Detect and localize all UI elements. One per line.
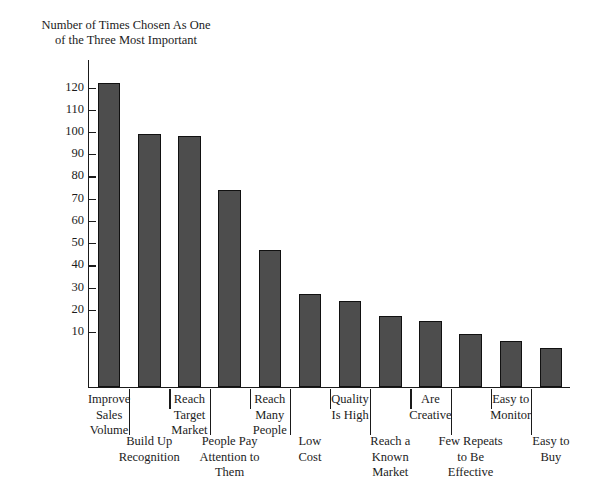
bar [98,83,121,387]
y-tick-50: 50 [89,243,96,244]
y-tick-label-110: 110 [50,102,84,117]
bar [339,301,362,387]
y-tick-label-40: 40 [50,257,84,272]
bar [218,190,241,387]
y-tick-80: 80 [89,176,96,177]
y-tick-label-70: 70 [50,191,84,206]
y-tick-label-10: 10 [50,324,84,339]
y-tick-label-100: 100 [50,124,84,139]
y-tick-110: 110 [89,110,96,111]
bar [459,334,482,387]
bar [138,134,161,387]
y-tick-30: 30 [89,288,96,289]
bar [178,136,201,387]
y-tick-70: 70 [89,199,96,200]
y-tick-60: 60 [89,221,96,222]
bar [299,294,322,387]
y-tick-100: 100 [89,132,96,133]
y-tick-40: 40 [89,265,96,266]
y-tick-90: 90 [89,154,96,155]
bar [379,316,402,387]
y-tick-label-30: 30 [50,280,84,295]
y-axis-title: Number of Times Chosen As One of the Thr… [6,18,246,48]
y-tick-label-50: 50 [50,235,84,250]
y-tick-label-60: 60 [50,213,84,228]
x-axis-label: Easy to Buy [503,434,595,465]
y-tick-label-120: 120 [50,80,84,95]
y-tick-120: 120 [89,88,96,89]
y-tick-10: 10 [89,332,96,333]
x-axis-label: Easy to Monitor [463,392,559,423]
y-tick-20: 20 [89,310,96,311]
bar [419,321,442,387]
x-axis-line [88,387,570,388]
y-tick-label-90: 90 [50,146,84,161]
y-tick-label-20: 20 [50,302,84,317]
bar [259,250,282,387]
y-tick-label-80: 80 [50,168,84,183]
bar [500,341,523,387]
plot-area: 120110100908070605040302010 [88,60,570,388]
bar [540,348,563,387]
